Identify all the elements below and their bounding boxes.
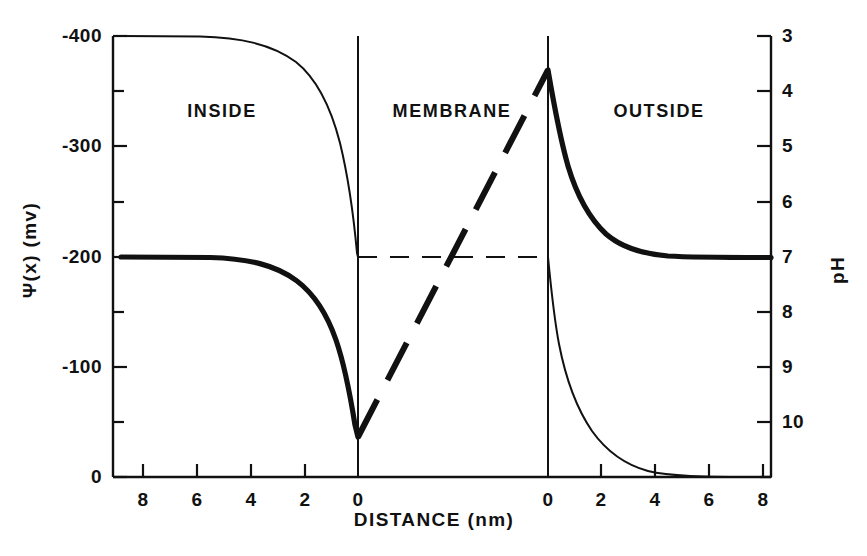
bottom-tick-label-outside-0: 0 [542,489,553,511]
right-tick-label-6: 9 [782,356,793,378]
series-thick-outside [548,70,771,258]
right-tick-label-0: 3 [782,25,793,47]
series-membrane-transition-dashed [358,70,548,437]
bottom-tick-label-outside-1: 2 [595,489,606,511]
series-thin-inside [121,36,358,257]
left-tick-label-3: -100 [14,356,102,378]
left-tick-label-1: -300 [14,135,102,157]
right-tick-label-2: 5 [782,135,793,157]
bottom-tick-label-inside-1: 6 [191,489,202,511]
region-label-membrane: MEMBRANE [393,101,512,122]
figure-container: -400 -300 -200 -100 0 3 4 5 6 7 8 9 10 8… [0,0,867,556]
chart-plot-area [0,0,867,556]
bottom-tick-label-outside-4: 8 [757,489,768,511]
bottom-tick-label-outside-2: 4 [649,489,660,511]
bottom-tick-label-inside-3: 2 [299,489,310,511]
left-tick-label-0: -400 [14,25,102,47]
right-tick-label-1: 4 [782,80,793,102]
series-thick-inside [121,257,358,437]
right-tick-label-5: 8 [782,301,793,323]
bottom-tick-label-inside-2: 4 [245,489,256,511]
bottom-tick-label-inside-4: 0 [352,489,363,511]
y-axis-title-left: Ψ(x) (mv) [19,202,41,299]
bottom-tick-label-inside-0: 8 [137,489,148,511]
right-tick-label-7: 10 [782,411,804,433]
bottom-axis-ticks-inside [143,464,305,477]
region-label-outside: OUTSIDE [613,101,704,122]
bottom-tick-label-outside-3: 6 [703,489,714,511]
y-axis-title-right: pH [827,256,849,284]
x-axis-title: DISTANCE (nm) [354,509,514,531]
series-thin-outside [548,257,771,477]
region-label-inside: INSIDE [187,101,257,122]
right-tick-label-3: 6 [782,191,793,213]
right-tick-label-4: 7 [782,246,793,268]
left-tick-label-4: 0 [14,466,102,488]
